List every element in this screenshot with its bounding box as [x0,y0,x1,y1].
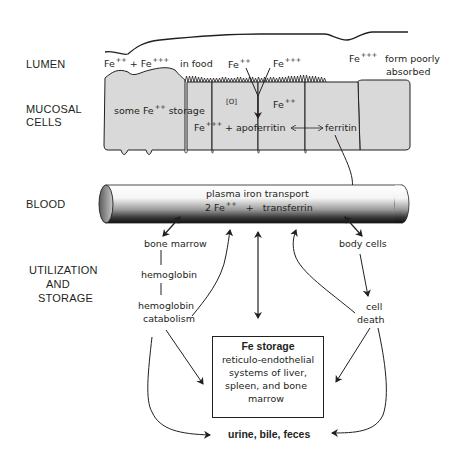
plasma-iron-transport-label: plasma iron transport [206,189,309,199]
hemoglobin-catabolism-line1: hemoglobin [138,301,194,311]
some-fe-storage-label: some Fe++ storage [114,106,205,116]
poorly-absorbed-line2: absorbed [386,67,430,77]
hemoglobin-label: hemoglobin [141,270,197,280]
mucosa-fe3-label: Fe+++ [194,123,222,133]
transferrin-equation: 2 Fe++ + transferrin [205,203,313,213]
region-label-lumen: LUMEN [26,59,66,70]
region-label-utilization: UTILIZATION [29,265,98,276]
poorly-absorbed-line1: form poorly [385,54,440,64]
mucosal-cell-3 [212,82,258,150]
mucosal-cell-5 [358,80,410,150]
fe-storage-line4: marrow [213,394,319,404]
region-label-cells: CELLS [26,117,62,128]
lumen-fe2-label: Fe++ + Fe+++ [104,59,169,69]
mucosal-cell-2 [187,82,212,150]
body-cells-label: body cells [339,239,387,249]
fe3-poor-label: Fe+++ [349,54,377,64]
excretion-label: urine, bile, feces [228,429,310,440]
mucosal-cell-4 [258,82,305,150]
cell-death-line2: death [357,315,384,325]
death-to-excretion-arrow [332,328,386,433]
fe-storage-line2: systems of liver, [213,368,323,378]
ferritin-label: ferritin [325,123,357,133]
oxidation-label: [O] [226,99,237,106]
fe-storage-box: Fe storage reticulo-endothelial systems … [212,336,324,418]
in-food-label: in food [180,59,213,69]
fe-storage-title: Fe storage [213,341,323,352]
apoferritin-label: + apoferritin [225,123,286,133]
region-label-mucosal: MUCOSAL [26,104,82,115]
fe-storage-line1: reticulo-endothelial [213,355,323,365]
cell-death-line1: cell [366,302,382,312]
hemoglobin-catabolism-line2: catabolism [143,314,195,324]
fe3-entry-label: Fe+++ [273,59,301,69]
body-cells-to-death-arrow [360,254,368,296]
fe2-entry-label: Fe++ [228,60,251,70]
brush-border [185,75,326,82]
catabolism-to-storage-arrow [166,330,203,384]
region-label-and: AND [46,279,70,290]
fe-storage-line3: spleen, and bone [213,381,319,391]
bone-marrow-label: bone marrow [144,239,207,249]
region-label-storage: STORAGE [38,293,93,304]
death-to-storage-arrow [336,328,370,382]
catabolism-to-excretion-arrow [148,337,210,435]
mucosa-fe2-label: Fe++ [273,100,296,110]
region-label-blood: BLOOD [26,199,66,210]
